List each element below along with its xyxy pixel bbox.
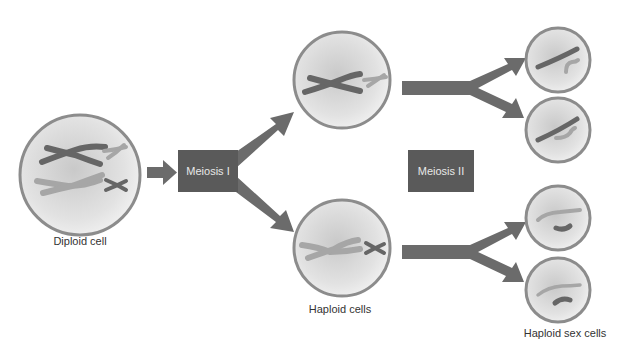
branch-arrows-meiosis1: [236, 112, 294, 232]
sex-cell-4: [526, 258, 590, 322]
meiosis-2-box: Meiosis II: [408, 150, 474, 192]
meiosis-1-label: Meiosis I: [186, 165, 229, 177]
sex-cell-1: [526, 28, 590, 92]
meiosis-diagram: [0, 0, 620, 349]
haploid-cell-bottom: [294, 200, 390, 296]
haploid-cells-label: Haploid cells: [309, 303, 371, 315]
branch-arrows-bottom: [402, 222, 526, 282]
haploid-cell-top: [294, 32, 390, 128]
sex-cell-3: [526, 186, 590, 250]
arrow-to-meiosis1: [147, 160, 177, 185]
haploid-sex-cells-label: Haploid sex cells: [524, 327, 607, 339]
meiosis-2-label: Meiosis II: [418, 165, 464, 177]
sex-cell-2: [526, 98, 590, 162]
diploid-cell: [20, 115, 140, 235]
branch-arrows-top: [402, 58, 526, 118]
meiosis-1-box: Meiosis I: [178, 150, 238, 192]
diploid-cell-label: Diploid cell: [53, 235, 106, 247]
